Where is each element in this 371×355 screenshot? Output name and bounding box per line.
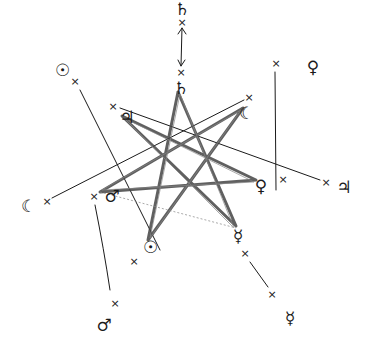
diagram-lines <box>0 0 371 355</box>
cross-mark: × <box>108 101 117 112</box>
cross-mark: × <box>278 174 287 185</box>
cross-mark: × <box>70 76 79 87</box>
cross-mark: × <box>240 248 249 259</box>
saturn-axis-line <box>181 28 182 66</box>
cross-mark: × <box>176 67 185 78</box>
mercury-line <box>250 262 268 287</box>
moon-symbol-inner: ☾ <box>239 105 254 122</box>
mars-symbol-outer: ♂ <box>96 317 111 334</box>
cross-mark: × <box>271 58 280 69</box>
jupiter-symbol-inner: ♃ <box>119 109 134 126</box>
cross-mark: × <box>177 17 186 28</box>
cross-mark: × <box>129 256 138 267</box>
cross-mark: × <box>321 177 330 188</box>
saturn-symbol-inner: ♄ <box>173 80 188 97</box>
venus-vertical-line <box>275 72 276 190</box>
mercury-symbol-outer: ☿ <box>285 310 295 327</box>
jupiter-symbol-outer: ♃ <box>336 179 351 196</box>
moon-symbol-outer: ☾ <box>21 198 36 215</box>
cross-mark: × <box>89 191 98 202</box>
cross-mark: × <box>42 196 51 207</box>
mercury-symbol-inner: ☿ <box>233 228 243 245</box>
venus-symbol-inner: ♀ <box>255 178 267 195</box>
sun-symbol-outer: ☉ <box>55 62 70 79</box>
mars-symbol-inner: ♂ <box>104 188 119 205</box>
sun-symbol-inner: ☉ <box>143 239 158 256</box>
venus-symbol-outer: ♀ <box>307 59 319 76</box>
cross-mark: × <box>244 92 253 103</box>
cross-mark: × <box>110 298 119 309</box>
cross-mark: × <box>267 289 276 300</box>
mars-line <box>95 205 110 290</box>
heptagram-diagram: ♄ ♄ ☉ ♃ ☾ ♀ ♀ ♃ ☾ ♂ ☉ ☿ ♂ ☿ × × × × × × … <box>0 0 371 355</box>
